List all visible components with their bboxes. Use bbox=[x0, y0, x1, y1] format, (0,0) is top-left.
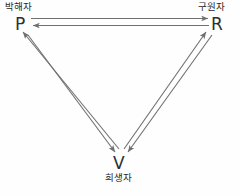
node-letter-p: P bbox=[15, 16, 25, 33]
edge-r-to-v bbox=[128, 35, 212, 152]
drama-triangle-figure: P R V 박해자 구원자 희생자 사람들의 관계와 심리현상 bbox=[0, 0, 240, 196]
node-letter-r: R bbox=[211, 16, 223, 33]
edge-v-to-r bbox=[124, 32, 206, 149]
node-letter-v: V bbox=[113, 155, 125, 172]
edge-p-to-v bbox=[28, 35, 115, 152]
figure-caption: 사람들의 관계와 심리현상 bbox=[0, 189, 240, 196]
edge-v-to-p bbox=[23, 32, 119, 149]
role-label-rescuer: 구원자 bbox=[198, 2, 225, 12]
role-label-persecutor: 박해자 bbox=[5, 2, 32, 12]
role-label-victim: 희생자 bbox=[105, 173, 132, 183]
